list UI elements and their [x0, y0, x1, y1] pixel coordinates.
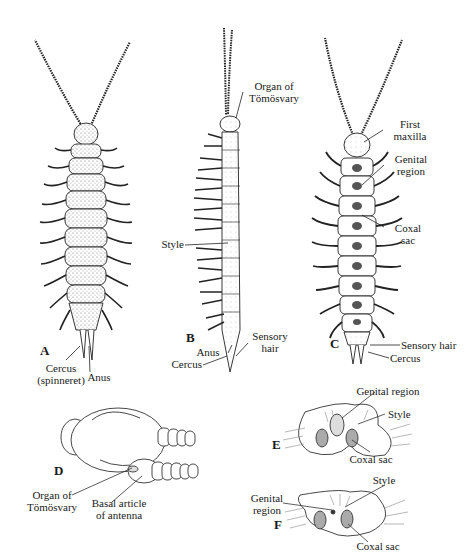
panel-a-drawing: [35, 40, 132, 372]
panel-letter-a: A: [40, 343, 49, 359]
label-d-organ-line1: Organ of: [26, 489, 78, 501]
label-f-genital-line1: Genital: [248, 492, 286, 504]
label-e-coxal-sac: Coxal sac: [345, 453, 397, 465]
illustration-canvas: [0, 0, 471, 554]
symphylan-anatomy-figure: A Cercus (spinneret) Anus B Organ of Töm…: [0, 0, 471, 554]
label-f-genital-region: Genital region: [248, 492, 286, 516]
label-b-style: Style: [150, 238, 184, 250]
label-c-maxilla-line2: maxilla: [385, 130, 435, 142]
label-b-organ-line2: Tömösvary: [243, 92, 305, 104]
panel-letter-b: B: [186, 330, 195, 346]
label-c-first-maxilla: First maxilla: [385, 118, 435, 142]
label-c-genital-region: Genital region: [386, 153, 436, 177]
label-c-sensory-hair: Sensory hair: [401, 339, 471, 351]
label-c-coxal-sac: Coxal sac: [386, 222, 430, 246]
label-e-style: Style: [388, 408, 418, 420]
label-b-cercus: Cercus: [160, 358, 202, 370]
label-d-organ-line2: Tömösvary: [26, 501, 78, 513]
panel-f-drawing: [283, 485, 408, 542]
label-c-genital-line2: region: [386, 165, 436, 177]
panel-letter-d: D: [54, 463, 63, 479]
label-e-genital-region: Genital region: [352, 385, 424, 397]
label-b-sensory-hair: Sensory hair: [248, 330, 292, 354]
label-c-coxal-line1: Coxal: [386, 222, 430, 234]
label-c-coxal-line2: sac: [386, 234, 430, 246]
label-f-coxal-sac: Coxal sac: [352, 540, 404, 552]
label-c-genital-line1: Genital: [386, 153, 436, 165]
panel-letter-c: C: [330, 336, 339, 352]
label-d-basal-line1: Basal article: [84, 497, 154, 509]
label-f-genital-line2: region: [248, 504, 286, 516]
label-b-anus: Anus: [193, 346, 223, 358]
panel-b-drawing: [185, 28, 248, 372]
label-b-sensory-line2: hair: [248, 342, 292, 354]
label-b-sensory-line1: Sensory: [248, 330, 292, 342]
label-f-style: Style: [368, 474, 400, 486]
label-d-basal-line2: of antenna: [84, 509, 154, 521]
label-c-cercus: Cercus: [390, 352, 434, 364]
panel-letter-e: E: [272, 437, 281, 453]
panel-e-drawing: [283, 392, 412, 456]
label-d-basal-article: Basal article of antenna: [84, 497, 154, 521]
panel-letter-f: F: [274, 517, 282, 533]
label-b-organ-line1: Organ of: [243, 80, 305, 92]
label-a-anus: Anus: [82, 371, 116, 383]
label-c-maxilla-line1: First: [385, 118, 435, 130]
panel-d-drawing: [61, 408, 198, 502]
label-b-organ-tomosvary: Organ of Tömösvary: [243, 80, 305, 104]
panel-c-drawing: [312, 38, 402, 364]
label-d-organ-tomosvary: Organ of Tömösvary: [26, 489, 78, 513]
